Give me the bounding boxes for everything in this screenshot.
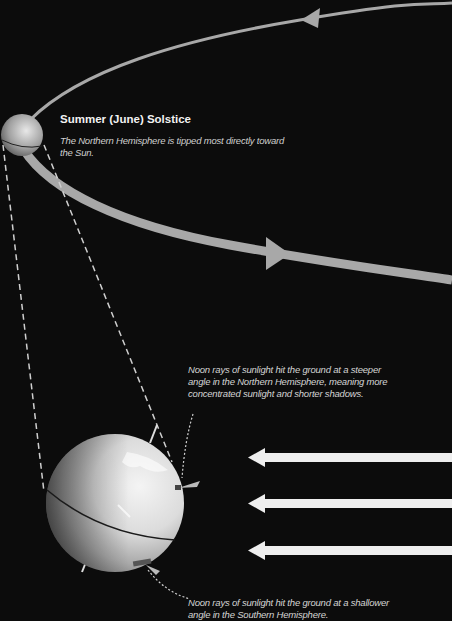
leader-line-north: [182, 414, 193, 478]
southern-hemisphere-note: Noon rays of sunlight hit the ground at …: [188, 597, 408, 621]
sunlight-arrow: [248, 448, 452, 467]
earth-small-icon: [1, 114, 43, 156]
diagram-title: Summer (June) Solstice: [60, 113, 191, 125]
sunlight-arrow: [248, 541, 452, 560]
northern-hemisphere-note: Noon rays of sunlight hit the ground at …: [188, 364, 388, 399]
sunlight-arrows: [248, 448, 452, 560]
diagram-subtitle: The Northern Hemisphere is tipped most d…: [60, 135, 290, 158]
earth-large-icon: [46, 425, 200, 575]
leader-line-south: [148, 570, 190, 599]
sunlight-arrow: [248, 494, 452, 513]
orbit-direction-arrow-icon: [266, 237, 290, 270]
